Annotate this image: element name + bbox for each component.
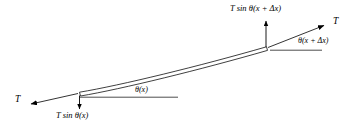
diagram-canvas	[0, 0, 354, 134]
tension-label-right: T	[333, 17, 338, 27]
tension-label-left: T	[15, 95, 20, 105]
vertical-force-label-left: T sin θ(x)	[56, 111, 88, 120]
string-tension-diagram: T T T sin θ(x) T sin θ(x + Δx) θ(x) θ(x …	[0, 0, 354, 134]
string-element-body	[80, 47, 268, 96]
vertical-force-label-right: T sin θ(x + Δx)	[230, 4, 281, 13]
angle-label-right: θ(x + Δx)	[298, 37, 328, 45]
tension-vector-left	[31, 94, 78, 105]
angle-label-left: θ(x)	[135, 86, 148, 94]
